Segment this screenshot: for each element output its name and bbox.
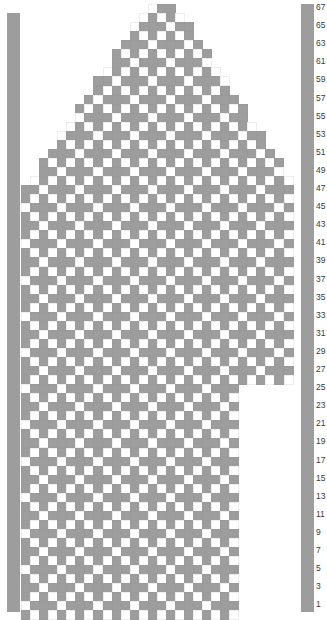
row-number-label: 45 xyxy=(316,202,325,211)
row-number-label: 51 xyxy=(316,148,325,157)
row-number-label: 31 xyxy=(316,329,325,338)
row-number-label: 59 xyxy=(316,75,325,84)
row-number-label: 9 xyxy=(316,528,321,537)
row-number-label: 27 xyxy=(316,365,325,374)
row-number-label: 25 xyxy=(316,383,325,392)
row-number-label: 11 xyxy=(316,510,325,519)
row-number-label: 13 xyxy=(316,492,325,501)
row-number-label: 57 xyxy=(316,94,325,103)
row-number-label: 41 xyxy=(316,238,325,247)
row-number-label: 37 xyxy=(316,275,325,284)
row-number-label: 23 xyxy=(316,401,325,410)
row-number-label: 7 xyxy=(316,546,321,555)
row-number-label: 17 xyxy=(316,456,325,465)
row-number-label: 47 xyxy=(316,184,325,193)
row-number-label: 3 xyxy=(316,582,321,591)
row-number-label: 5 xyxy=(316,564,321,573)
row-number-label: 21 xyxy=(316,419,325,428)
row-number-label: 49 xyxy=(316,166,325,175)
row-number-label: 19 xyxy=(316,437,325,446)
row-number-label: 15 xyxy=(316,474,325,483)
row-number-label: 63 xyxy=(316,39,325,48)
row-number-label: 35 xyxy=(316,293,325,302)
row-number-label: 33 xyxy=(316,311,325,320)
row-number-label: 61 xyxy=(316,57,325,66)
row-number-label: 29 xyxy=(316,347,325,356)
row-number-label: 43 xyxy=(316,220,325,229)
row-number-label: 55 xyxy=(316,112,325,121)
row-number-label: 65 xyxy=(316,21,325,30)
row-number-label: 1 xyxy=(316,600,321,609)
row-number-label: 53 xyxy=(316,130,325,139)
row-number-label: 39 xyxy=(316,256,325,265)
row-number-label: 67 xyxy=(316,3,325,12)
